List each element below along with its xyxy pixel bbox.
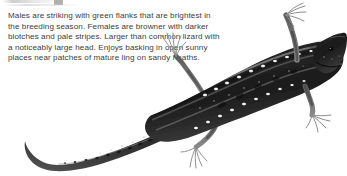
field-guide-page: Males are striking with green flanks tha…: [0, 0, 347, 176]
eye: [329, 47, 334, 51]
front-left-leg: [162, 33, 205, 96]
sand-lizard-illustration: [0, 0, 347, 176]
head: [313, 33, 347, 73]
hind-right-leg: [305, 86, 331, 132]
